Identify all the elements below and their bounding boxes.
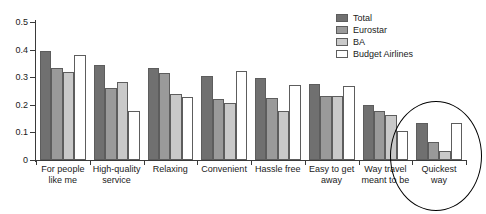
- legend-label: Budget Airlines: [353, 49, 413, 59]
- legend-label: Total: [353, 13, 372, 23]
- bar-total: [255, 78, 266, 160]
- legend-swatch-icon: [336, 14, 348, 22]
- bar-total: [94, 65, 105, 160]
- bar-total: [201, 76, 212, 160]
- bar-group: [36, 22, 90, 160]
- y-tick-mark: [30, 132, 35, 133]
- bar-eurostar: [105, 88, 116, 160]
- bar-group: [197, 22, 251, 160]
- y-tick-mark: [30, 77, 35, 78]
- y-tick-label: 0: [0, 155, 28, 165]
- bar-eurostar: [428, 142, 439, 160]
- bar-group: [251, 22, 305, 160]
- bar-ba: [117, 82, 128, 160]
- legend-item: Budget Airlines: [336, 48, 413, 59]
- y-tick-label: 0.2: [0, 100, 28, 110]
- legend-swatch-icon: [336, 50, 348, 58]
- bar-budget-airlines: [128, 111, 139, 160]
- y-tick-mark: [30, 105, 35, 106]
- bar-ba: [170, 94, 181, 160]
- y-tick-mark: [30, 50, 35, 51]
- y-tick-mark: [30, 160, 35, 161]
- bar-budget-airlines: [289, 85, 300, 160]
- bar-ba: [278, 111, 289, 160]
- bar-budget-airlines: [397, 131, 408, 160]
- bar-total: [148, 68, 159, 160]
- y-tick-label: 0.3: [0, 72, 28, 82]
- legend-label: Eurostar: [353, 25, 387, 35]
- bar-budget-airlines: [74, 55, 85, 160]
- bar-ba: [332, 96, 343, 160]
- bar-budget-airlines: [451, 123, 462, 160]
- bar-ba: [63, 72, 74, 160]
- bar-eurostar: [374, 111, 385, 160]
- y-tick-mark: [30, 22, 35, 23]
- y-tick-label: 0.4: [0, 45, 28, 55]
- bar-eurostar: [266, 98, 277, 160]
- bar-group: [412, 22, 466, 160]
- bar-group: [90, 22, 144, 160]
- bar-total: [309, 84, 320, 160]
- bar-budget-airlines: [343, 86, 354, 160]
- bar-budget-airlines: [236, 71, 247, 160]
- bar-chart: 00.10.20.30.40.5 For people like meHigh-…: [0, 0, 486, 214]
- y-tick-label: 0.5: [0, 17, 28, 27]
- legend-swatch-icon: [336, 38, 348, 46]
- bar-ba: [439, 151, 450, 160]
- bar-eurostar: [320, 96, 331, 160]
- bar-eurostar: [213, 99, 224, 160]
- bar-eurostar: [159, 73, 170, 160]
- bar-group: [144, 22, 198, 160]
- chart-legend: TotalEurostarBABudget Airlines: [336, 12, 413, 60]
- y-tick-label: 0.1: [0, 127, 28, 137]
- legend-item: BA: [336, 36, 413, 47]
- bar-ba: [385, 115, 396, 160]
- bar-total: [416, 123, 427, 160]
- bar-ba: [224, 103, 235, 160]
- bar-budget-airlines: [182, 97, 193, 160]
- legend-label: BA: [353, 37, 365, 47]
- bar-eurostar: [51, 68, 62, 160]
- x-category-label: Quickest way: [406, 164, 472, 186]
- bar-total: [363, 105, 374, 160]
- bar-total: [40, 51, 51, 160]
- legend-swatch-icon: [336, 26, 348, 34]
- legend-item: Eurostar: [336, 24, 413, 35]
- legend-item: Total: [336, 12, 413, 23]
